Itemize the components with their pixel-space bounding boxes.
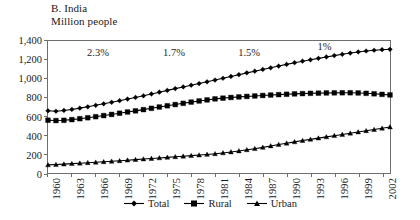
x-axis-tick-mark — [239, 174, 240, 177]
x-axis-tick-label: 1984 — [243, 178, 254, 199]
data-point — [157, 90, 162, 95]
growth-rate-label: 1% — [317, 41, 331, 52]
data-point — [300, 59, 305, 64]
data-point — [276, 64, 281, 69]
data-point — [54, 118, 59, 123]
data-point — [85, 115, 90, 120]
data-point — [173, 102, 178, 107]
data-point — [54, 109, 59, 114]
chart-legend: TotalRuralUrban — [0, 198, 420, 209]
legend-label: Urban — [271, 198, 297, 209]
legend-label: Total — [148, 198, 169, 209]
y-axis-tick-mark — [44, 59, 47, 60]
data-point — [221, 96, 226, 101]
x-axis-tick-label: 1993 — [315, 178, 326, 199]
data-point — [292, 60, 297, 65]
data-point — [101, 101, 106, 106]
x-axis-tick-label: 1981 — [219, 178, 230, 199]
data-point — [236, 95, 241, 100]
data-point — [181, 85, 186, 90]
data-point — [364, 91, 369, 96]
data-point — [141, 107, 146, 112]
data-point — [109, 100, 114, 105]
y-axis-tick-label: 200 — [0, 149, 47, 160]
data-point — [109, 112, 114, 117]
data-point — [85, 104, 90, 109]
x-axis-tick-label: 1960 — [51, 178, 62, 199]
data-point — [388, 93, 393, 98]
data-point — [244, 94, 249, 99]
x-axis-tick-mark — [383, 174, 384, 177]
growth-rate-label: 1.5% — [238, 47, 260, 58]
data-point — [133, 95, 138, 100]
x-axis-tick-mark — [167, 174, 168, 177]
data-point — [189, 100, 194, 105]
series-rural — [46, 90, 393, 123]
y-axis-tick-mark — [44, 135, 47, 136]
data-point — [205, 98, 210, 103]
data-point — [213, 97, 218, 102]
data-point — [236, 72, 241, 77]
series-line — [48, 93, 390, 121]
data-point — [316, 91, 321, 96]
data-point — [332, 53, 337, 58]
diamond-marker-icon — [123, 198, 145, 209]
series-urban — [46, 125, 393, 167]
legend-item-urban[interactable]: Urban — [246, 198, 297, 209]
x-axis-tick-mark — [287, 174, 288, 177]
y-axis-tick-mark — [44, 97, 47, 98]
x-axis-tick-mark — [263, 174, 264, 177]
data-point — [348, 90, 353, 95]
data-point — [372, 91, 377, 96]
data-point — [221, 76, 226, 81]
data-point — [300, 91, 305, 96]
data-point — [380, 47, 385, 52]
data-point — [157, 105, 162, 110]
legend-item-total[interactable]: Total — [123, 198, 169, 209]
data-point — [133, 109, 138, 114]
y-axis-tick-mark — [44, 116, 47, 117]
data-point — [268, 65, 273, 70]
data-point — [77, 116, 82, 121]
data-point — [181, 101, 186, 106]
x-axis-tick-label: 1978 — [195, 178, 206, 199]
data-point — [332, 90, 337, 95]
y-axis-tick-mark — [44, 78, 47, 79]
data-point — [197, 99, 202, 104]
x-axis-tick-mark — [359, 174, 360, 177]
data-point — [117, 111, 122, 116]
data-point — [308, 57, 313, 62]
x-axis-tick-mark — [119, 174, 120, 177]
data-point — [165, 88, 170, 93]
y-axis-tick-label: 1,000 — [0, 73, 47, 84]
data-point — [77, 106, 82, 111]
y-axis-tick-label: 400 — [0, 130, 47, 141]
data-point — [173, 86, 178, 91]
data-point — [149, 106, 154, 111]
chart-title: B. India — [51, 2, 117, 15]
y-axis-tick-label: 800 — [0, 92, 47, 103]
data-point — [149, 92, 154, 97]
data-point — [62, 118, 67, 123]
data-point — [69, 107, 74, 112]
x-axis-tick-mark — [191, 174, 192, 177]
legend-item-rural[interactable]: Rural — [183, 198, 231, 209]
series-canvas — [48, 41, 390, 173]
x-axis-tick-label: 1990 — [291, 178, 302, 199]
x-axis-tick-mark — [143, 174, 144, 177]
triangle-marker-icon — [246, 198, 268, 209]
chart-subtitle: Million people — [51, 15, 117, 28]
y-axis-tick-mark — [44, 40, 47, 41]
data-point — [62, 108, 67, 113]
x-axis-tick-label: 1999 — [363, 178, 374, 199]
data-point — [197, 81, 202, 86]
data-point — [276, 92, 281, 97]
data-point — [380, 92, 385, 97]
data-point — [93, 114, 98, 119]
data-point — [284, 62, 289, 67]
x-axis-tick-label: 1987 — [267, 178, 278, 199]
y-axis-tick-label: 1,200 — [0, 54, 47, 65]
x-axis-tick-label: 1975 — [171, 178, 182, 199]
data-point — [125, 97, 130, 102]
growth-rate-label: 1.7% — [163, 47, 185, 58]
